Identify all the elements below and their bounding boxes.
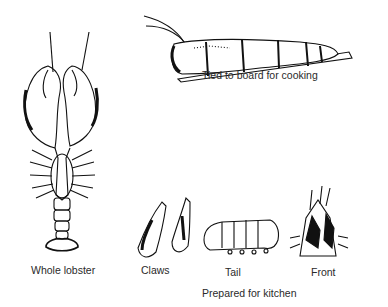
tail-label: Tail: [225, 266, 241, 278]
claws-label: Claws: [141, 264, 170, 276]
lobster-illustration: [0, 0, 388, 307]
claws-drawing: [138, 198, 190, 257]
whole-lobster-drawing: [25, 32, 98, 251]
tied-label: Tied to board for cooking: [202, 69, 318, 81]
front-drawing: [290, 186, 348, 256]
tail-drawing: [204, 220, 279, 254]
whole-lobster-label: Whole lobster: [31, 264, 95, 276]
front-label: Front: [311, 266, 336, 278]
group-caption: Prepared for kitchen: [202, 287, 297, 299]
